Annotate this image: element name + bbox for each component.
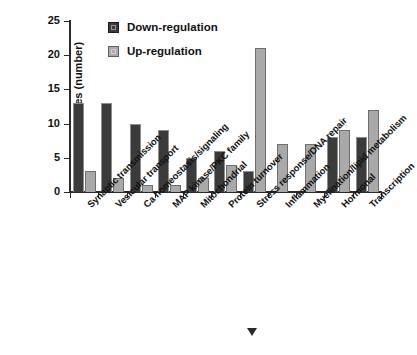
y-tick-label-0: 0 xyxy=(54,185,60,198)
y-tick-10: 10 xyxy=(64,124,70,125)
bar-group xyxy=(71,21,99,192)
y-tick-label-10: 10 xyxy=(48,117,60,130)
y-tick-25: 25 xyxy=(64,21,70,22)
bar-down-regulation xyxy=(73,103,84,192)
y-tick-label-5: 5 xyxy=(54,151,60,164)
y-tick-label-15: 15 xyxy=(48,82,60,95)
bar-up-regulation xyxy=(85,171,96,192)
y-tick-5: 5 xyxy=(64,158,70,159)
y-tick-20: 20 xyxy=(64,55,70,56)
legend-swatch-up-icon xyxy=(108,46,119,57)
y-tick-label-20: 20 xyxy=(48,48,60,61)
caption-strip xyxy=(0,344,395,355)
x-tick xyxy=(70,193,71,198)
chart-legend: Down-regulation Up-regulation xyxy=(108,17,218,65)
legend-swatch-down-icon xyxy=(108,22,119,33)
legend-label-down: Down-regulation xyxy=(127,21,218,33)
y-tick-label-25: 25 xyxy=(48,14,60,27)
caption-arrow-icon xyxy=(247,328,257,336)
legend-item-down: Down-regulation xyxy=(108,17,218,37)
legend-item-up: Up-regulation xyxy=(108,41,218,61)
y-tick-15: 15 xyxy=(64,89,70,90)
legend-label-up: Up-regulation xyxy=(127,45,202,57)
